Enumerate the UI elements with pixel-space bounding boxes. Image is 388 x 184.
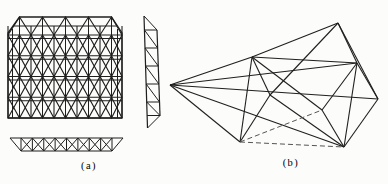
- figure-b-caption: (b): [283, 157, 300, 169]
- figure-a-caption: (a): [81, 160, 97, 172]
- diagram-canvas: (a) (b): [0, 0, 388, 184]
- truss-diagram: (a) (b): [0, 0, 388, 184]
